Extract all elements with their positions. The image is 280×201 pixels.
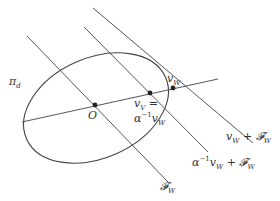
diagram-canvas: πd O vW vV = α−1vW vW + 𝓕W α−1vW + 𝓕W 𝓕W	[0, 0, 280, 201]
label-vW-plus-F-W: vW + 𝓕W	[226, 131, 271, 145]
label-F-W: 𝓕W	[160, 181, 175, 195]
point-origin	[93, 103, 98, 108]
line-through-origin	[22, 79, 218, 122]
label-vW: vW	[167, 73, 180, 87]
point-vV	[148, 91, 153, 96]
label-alpha-inv-vW: α−1vW	[134, 112, 165, 127]
label-alpha-inv-vW-plus-F-W: α−1vW + 𝓕W	[192, 156, 255, 171]
label-origin: O	[88, 110, 97, 121]
label-pi-d: πd	[9, 76, 21, 90]
